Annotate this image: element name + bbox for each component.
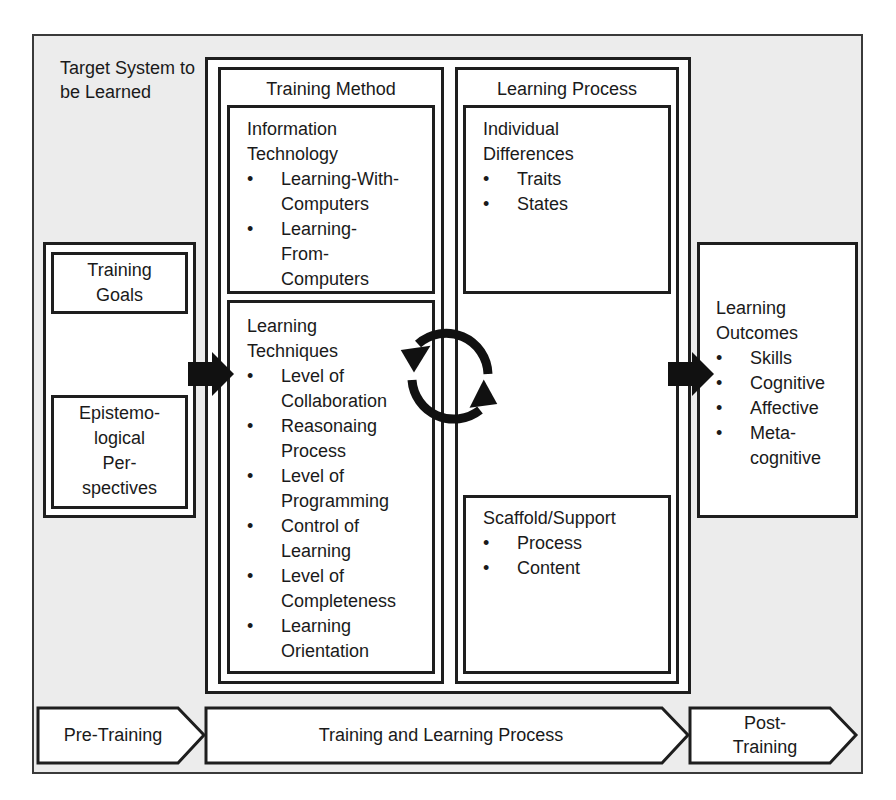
label-line: Post-: [690, 711, 840, 735]
phase-post-training: Post- Training: [690, 711, 840, 759]
phase-training-learning: Training and Learning Process: [206, 723, 676, 748]
phase-chevrons: [0, 0, 896, 800]
phase-pre-training: Pre-Training: [38, 723, 188, 748]
label-line: Training: [690, 735, 840, 759]
